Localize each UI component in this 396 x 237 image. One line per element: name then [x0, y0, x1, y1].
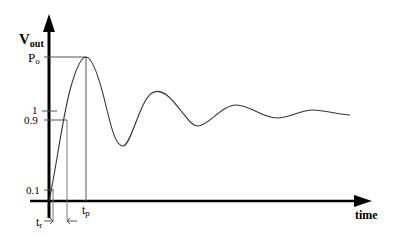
- ninety-label: 0.9: [24, 114, 38, 126]
- x-axis-label: time: [355, 208, 378, 222]
- response-curve: [49, 57, 350, 201]
- y-axis-arrow-icon: [43, 14, 55, 32]
- tr-label: tr: [36, 215, 42, 230]
- tp-label: tp: [82, 203, 90, 218]
- step-response-diagram: Vout time Po 1 0.9 0.1 tr tp: [0, 0, 396, 237]
- y-axis-label: Vout: [19, 31, 44, 49]
- ten-label: 0.1: [26, 184, 40, 196]
- po-label: Po: [28, 50, 40, 66]
- x-axis-arrow-icon: [354, 195, 372, 207]
